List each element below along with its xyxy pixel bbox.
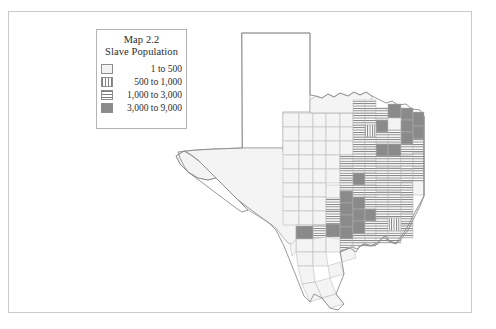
legend-row: 500 to 1,000 bbox=[101, 76, 186, 88]
legend-label-500-to-1000: 500 to 1,000 bbox=[113, 77, 186, 87]
map-figure: Map 2.2 Slave Population 1 to 500 500 to… bbox=[0, 0, 496, 329]
legend-title-line2: Slave Population bbox=[97, 46, 186, 58]
legend-label-1-to-500: 1 to 500 bbox=[113, 64, 186, 74]
legend-label-1000-to-3000: 1,000 to 3,000 bbox=[113, 90, 186, 100]
legend-entries: 1 to 500 500 to 1,000 1,000 to 3,000 3,0… bbox=[97, 63, 186, 114]
legend-row: 3,000 to 9,000 bbox=[101, 102, 186, 114]
legend-swatch-3000-to-9000-icon bbox=[101, 103, 113, 113]
legend-swatch-500-to-1000-icon bbox=[101, 77, 113, 87]
map-legend: Map 2.2 Slave Population 1 to 500 500 to… bbox=[96, 29, 187, 129]
map-base-layer bbox=[176, 33, 424, 310]
legend-swatch-1-to-500-icon bbox=[101, 64, 113, 74]
county-group-red-river bbox=[353, 100, 376, 113]
legend-title-line1: Map 2.2 bbox=[97, 34, 186, 46]
legend-row: 1,000 to 3,000 bbox=[101, 89, 186, 101]
legend-swatch-1000-to-3000-icon bbox=[101, 90, 113, 100]
legend-row: 1 to 500 bbox=[101, 63, 186, 75]
texas-choropleth-map bbox=[0, 0, 496, 329]
legend-label-3000-to-9000: 3,000 to 9,000 bbox=[113, 103, 186, 113]
